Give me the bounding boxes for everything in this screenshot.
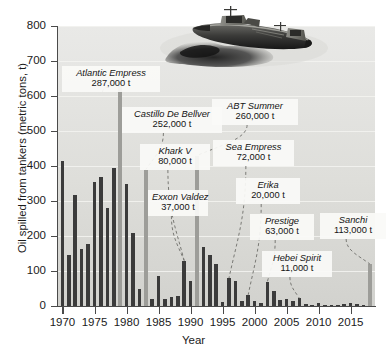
x-axis-tick-label: 1990 [178,316,204,328]
callout-amount: 287,000 t [66,78,156,88]
x-axis-tick [191,307,192,314]
x-axis-tick [62,307,63,314]
y-axis-tick [51,96,58,97]
y-axis-tick [51,201,58,202]
callout-amount: 72,000 t [217,152,290,162]
y-axis-tick [51,306,58,307]
callout-amount: 113,000 t [324,225,382,235]
gridline [58,96,375,97]
bar [80,249,84,306]
x-axis-tick-label: 2015 [338,316,364,328]
y-axis-tick [51,236,58,237]
x-axis-tick-label: 2010 [306,316,332,328]
bar [106,208,110,306]
callout-name: ABT Summer [216,101,294,111]
x-axis-line [57,306,376,307]
oil-spill-chart: 0100200300400500600700800 19701975198019… [0,0,387,360]
callout-erika: Erika20,000 t [236,178,300,204]
x-axis-tick [223,307,224,314]
x-axis-tick [127,307,128,314]
y-axis-tick-label: 0 [22,300,46,311]
x-axis-tick-label: 2000 [242,316,268,328]
callout-atlantic-empress: Atlantic Empress287,000 t [62,66,160,92]
y-axis-tick [51,61,58,62]
bar [272,291,276,306]
bar [163,299,167,306]
callout-prestige: Prestige63,000 t [250,214,314,240]
callout-amount: 260,000 t [216,111,294,121]
x-axis-tick [255,307,256,314]
x-axis-tick-label: 2005 [274,316,300,328]
x-axis-title: Year [0,334,387,346]
callout-name: Sea Empress [217,142,290,152]
callout-amount: 63,000 t [254,226,310,236]
bar [182,261,186,307]
x-axis-tick [159,307,160,314]
bar [157,276,161,306]
callout-name: Exxon Valdez [152,192,204,202]
callout-name: Atlantic Empress [66,68,156,78]
bar [202,247,206,307]
bar [208,255,212,306]
y-axis-ticks: 0100200300400500600700800 [0,0,58,330]
x-axis-tick-label: 1995 [210,316,236,328]
x-axis-tick-label: 1970 [50,316,76,328]
bar [234,281,238,306]
y-axis-tick [51,166,58,167]
callout-name: Castillo De Bellver [126,109,218,119]
y-axis-tick [51,26,58,27]
bar [285,299,289,306]
oil-tanker-illustration [160,2,328,68]
bar [99,177,103,307]
bar [176,296,180,307]
callout-sanchi: Sanchi113,000 t [320,213,386,239]
bar [150,299,154,306]
gridline [58,201,375,202]
bar [227,278,231,306]
bar [93,182,97,306]
bar [125,184,129,307]
callout-castillo-de-bellver: Castillo De Bellver252,000 t [122,107,222,133]
bar [266,282,270,307]
x-axis-tick-label: 1975 [82,316,108,328]
callout-name: Erika [240,180,296,190]
y-axis-title: Oil spilled from tankers (metric tons, t… [16,18,28,298]
gridline [58,166,375,167]
x-axis-tick-label: 1980 [114,316,140,328]
callout-abt-summer: ABT Summer260,000 t [212,99,298,125]
bar [214,264,218,306]
x-axis-tick [351,307,352,314]
callout-name: Sanchi [324,215,382,225]
callout-khark-v: Khark V80,000 t [140,144,210,170]
bar [298,298,302,306]
bar [189,281,193,306]
bar [67,255,71,306]
x-axis-tick [287,307,288,314]
x-axis-tick [319,307,320,314]
bar [86,244,90,306]
callout-name: Khark V [144,146,206,156]
bar [61,161,65,306]
bar [144,170,148,307]
callout-amount: 37,000 t [152,202,204,212]
bar [73,195,77,306]
callout-amount: 11,000 t [266,263,328,273]
x-axis-tick [95,307,96,314]
y-axis-tick [51,271,58,272]
callout-name: Prestige [254,216,310,226]
callout-sea-empress: Sea Empress72,000 t [213,140,294,166]
callout-amount: 252,000 t [126,119,218,129]
callout-name: Hebei Spirit [266,253,328,263]
callout-amount: 20,000 t [240,190,296,200]
bar [112,168,116,306]
callout-hebei-spirit: Hebei Spirit11,000 t [262,251,332,277]
y-axis-tick [51,131,58,132]
bar [131,233,135,307]
x-axis-tick-label: 1985 [146,316,172,328]
bar [246,295,250,306]
callout-exxon-valdez: Exxon Valdez37,000 t [148,190,208,216]
bar [170,297,174,306]
bar [138,289,142,307]
callout-amount: 80,000 t [144,156,206,166]
bar [195,156,199,307]
